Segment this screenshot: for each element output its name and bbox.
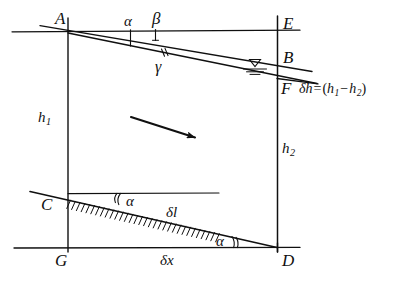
energy-line-AF <box>68 33 317 84</box>
point-label-G: G <box>55 252 67 269</box>
length-label-delta-l: δl <box>166 205 177 220</box>
angle-label-alpha-bed-upper: α <box>126 194 134 209</box>
angle-label-alpha-top: α <box>124 14 132 29</box>
point-label-F: F <box>281 80 291 97</box>
angle-arc-gamma-outer <box>165 48 168 55</box>
bed-horizontal-reference-line <box>68 193 219 194</box>
angle-label-beta: β <box>152 10 160 27</box>
depth-label-h2-base: h <box>282 140 290 156</box>
hydraulics-definition-sketch: A E B F C G D α β γ α α h1 h2 δl δx δh=(… <box>0 0 417 282</box>
angle-arc-alpha-bed-upper-outer <box>118 193 121 204</box>
formula-equals: = <box>313 81 323 96</box>
point-label-A: A <box>55 10 65 27</box>
bottom-datum-line-GD <box>14 247 300 248</box>
point-label-E: E <box>283 15 293 32</box>
length-label-delta-x: δx <box>160 253 174 268</box>
head-loss-formula: δh=(h1−h2) <box>299 82 366 98</box>
point-label-D: D <box>282 252 294 269</box>
figure-linework <box>0 0 417 282</box>
formula-minus: − <box>339 81 349 96</box>
point-label-C: C <box>41 196 52 213</box>
flow-direction-arrow-icon <box>131 117 195 138</box>
angle-label-alpha-bed-lower: α <box>216 234 224 249</box>
angle-arc-alpha-bed-upper-inner <box>115 193 117 202</box>
point-label-B: B <box>283 49 293 66</box>
water-surface-line-AB <box>40 26 312 72</box>
angle-label-gamma: γ <box>155 59 161 75</box>
depth-label-h1-sub: 1 <box>46 116 52 127</box>
channel-bed-hatching-icon <box>67 200 220 242</box>
formula-lhs: δh <box>299 81 313 96</box>
depth-label-h2: h2 <box>282 141 295 158</box>
depth-label-h2-sub: 2 <box>290 147 296 158</box>
depth-label-h1: h1 <box>38 110 51 127</box>
depth-label-h1-base: h <box>38 109 46 125</box>
formula-close-paren: ) <box>362 81 367 96</box>
channel-bed-line-CD <box>30 192 277 248</box>
